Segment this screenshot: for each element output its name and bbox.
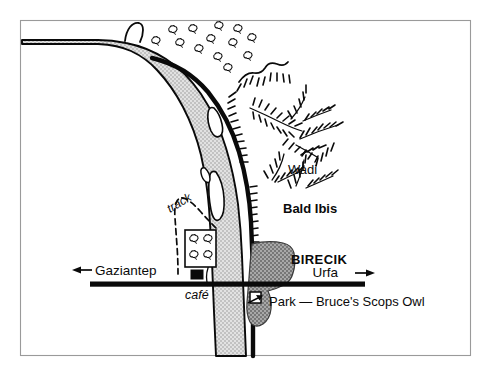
label-bald-ibis: Bald Ibis — [283, 201, 337, 216]
label-cafe: café — [185, 288, 209, 302]
map-figure: Wadi Bald Ibis BIRECIK Gaziantep Urfa ca… — [0, 0, 486, 378]
label-park-scops-owl: Park — Bruce's Scops Owl — [269, 294, 425, 309]
main-highway — [90, 282, 365, 287]
label-urfa: Urfa — [312, 265, 338, 280]
map-canvas: Wadi Bald Ibis BIRECIK Gaziantep Urfa ca… — [0, 0, 486, 378]
cafe-building-marker — [191, 270, 203, 279]
park-marker-group — [248, 292, 263, 303]
orchard-enclosure — [185, 230, 216, 267]
label-wadi: Wadi — [288, 162, 317, 177]
label-gaziantep: Gaziantep — [95, 263, 157, 278]
